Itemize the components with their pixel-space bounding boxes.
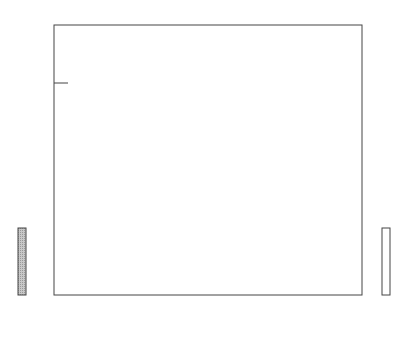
bar-chart <box>0 0 403 362</box>
plot-frame <box>54 25 362 295</box>
left-legend <box>18 228 26 295</box>
legend-swatch-score <box>382 228 390 295</box>
right-legend <box>382 228 390 295</box>
legend-swatch-feet <box>18 228 26 295</box>
